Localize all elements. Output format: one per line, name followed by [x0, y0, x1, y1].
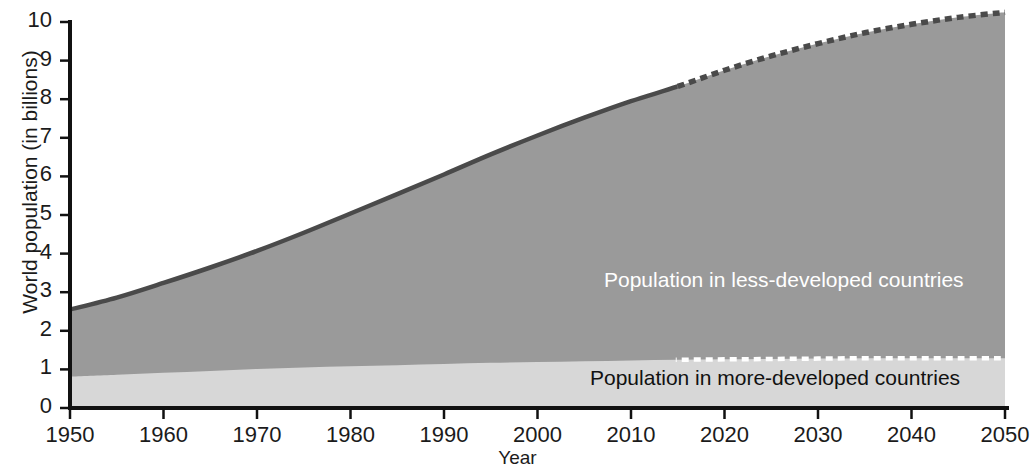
- y-tick-label: 1: [6, 354, 52, 380]
- label-more-developed-countries: Population in more-developed countries: [590, 366, 960, 390]
- label-less-developed-countries: Population in less-developed countries: [604, 268, 964, 292]
- y-tick-label: 4: [6, 239, 52, 265]
- y-tick-label: 5: [6, 200, 52, 226]
- x-tick-label: 2020: [680, 422, 770, 448]
- x-tick-label: 2050: [960, 422, 1035, 448]
- x-tick-label: 2030: [773, 422, 863, 448]
- y-tick-label: 3: [6, 277, 52, 303]
- y-tick-label: 0: [6, 393, 52, 419]
- area-less-developed: [70, 12, 1005, 408]
- y-tick-label: 8: [6, 84, 52, 110]
- stacked-areas: [70, 12, 1005, 408]
- x-tick-label: 1970: [212, 422, 302, 448]
- x-tick-label: 1990: [399, 422, 489, 448]
- y-tick-label: 10: [6, 7, 52, 33]
- y-tick-label: 9: [6, 46, 52, 72]
- population-area-chart: World population (in billions) Year 0123…: [0, 0, 1035, 474]
- x-tick-label: 1980: [306, 422, 396, 448]
- x-tick-label: 2040: [867, 422, 957, 448]
- x-axis-title: Year: [0, 447, 1035, 469]
- x-tick-label: 1960: [119, 422, 209, 448]
- y-tick-label: 7: [6, 123, 52, 149]
- y-tick-label: 2: [6, 316, 52, 342]
- x-tick-label: 2000: [493, 422, 583, 448]
- chart-plot-area: [0, 0, 1035, 474]
- x-tick-label: 2010: [586, 422, 676, 448]
- y-tick-label: 6: [6, 161, 52, 187]
- x-tick-label: 1950: [25, 422, 115, 448]
